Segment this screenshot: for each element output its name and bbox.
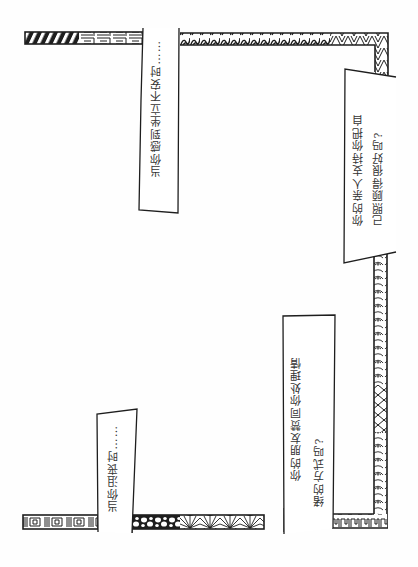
- label-right-top-line1: 你的亲人支持你把自: [352, 96, 366, 226]
- label-bottom-left: 当你沮丧时……: [107, 432, 121, 512]
- label-right-bottom-line1: 你的朋友赞同你处理情: [290, 357, 304, 481]
- border-top-right: [180, 33, 388, 75]
- label-right-bottom-line2: 绪的方式吗?: [313, 432, 327, 507]
- border-right: [374, 254, 387, 528]
- label-right-top-line2: 己照顾得很好吗?: [372, 140, 386, 226]
- label-top-middle: 当你感到坐立不安时……: [150, 57, 164, 177]
- border-bottom-right: [332, 514, 388, 528]
- border-top-left: [25, 32, 143, 44]
- border-artwork: [0, 0, 418, 567]
- border-bottom-left: [23, 515, 98, 529]
- illustrated-page: 当你感到坐立不安时…… 你的亲人支持你把自 己照顾得很好吗? 你的朋友赞同你处理…: [0, 0, 418, 567]
- border-bottom-middle: [132, 508, 284, 533]
